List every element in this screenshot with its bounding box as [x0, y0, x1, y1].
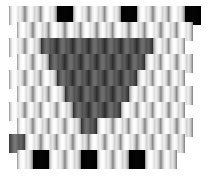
- tile-r9-c7-black: [129, 150, 145, 169]
- tile-r9-c8-light: [145, 150, 161, 169]
- tile-r9-c2-light: [49, 150, 65, 169]
- mosaic-canvas: [0, 0, 210, 178]
- tile-r9-c9-light2: [161, 150, 177, 169]
- tile-r9-c6-light2: [113, 150, 129, 169]
- tile-r9-c0-light: [17, 150, 33, 169]
- tile-r9-c5-light: [97, 150, 113, 169]
- tile-row-9: [17, 150, 177, 169]
- tile-r9-c3-light2: [65, 150, 81, 169]
- tile-r9-c4-black: [81, 150, 97, 169]
- tile-r9-c1-black: [33, 150, 49, 169]
